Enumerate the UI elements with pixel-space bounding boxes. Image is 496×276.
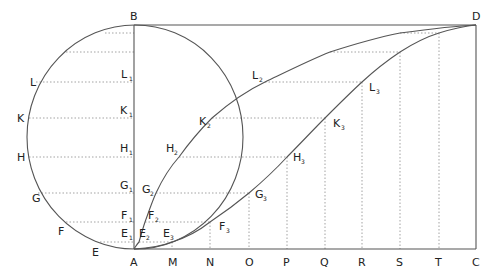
generating-circle	[27, 25, 243, 249]
svg-text:2: 2	[259, 76, 263, 83]
svg-text:N: N	[206, 256, 214, 269]
label-A: A	[130, 256, 138, 269]
svg-text:2: 2	[146, 234, 150, 241]
svg-text:3: 3	[226, 227, 230, 234]
svg-text:1: 1	[129, 75, 133, 82]
svg-text:1: 1	[129, 111, 133, 118]
label-K: K	[17, 112, 25, 125]
label-E: E	[92, 246, 99, 259]
svg-text:E: E	[163, 227, 170, 240]
svg-text:3: 3	[341, 124, 345, 131]
baseline-labels: M N O P Q R S T	[168, 256, 442, 269]
svg-text:1: 1	[129, 216, 133, 223]
svg-text:F: F	[121, 209, 127, 222]
svg-text:S: S	[396, 256, 403, 269]
curve3-labels: L3 K3 H3 G3 F3 E3	[163, 81, 380, 241]
svg-text:K: K	[120, 104, 128, 117]
svg-text:H: H	[120, 142, 128, 155]
diagram-canvas: B D A C L K H G F E L1 K1 H1 G1 F1 E1 L2…	[0, 0, 496, 276]
svg-text:3: 3	[170, 234, 174, 241]
svg-text:3: 3	[376, 88, 380, 95]
dotted-horizontals-left	[29, 33, 134, 242]
svg-text:1: 1	[129, 186, 133, 193]
svg-text:L: L	[369, 81, 376, 94]
svg-text:L: L	[121, 68, 128, 81]
svg-text:R: R	[358, 256, 366, 269]
svg-text:F: F	[219, 220, 225, 233]
label-H: H	[17, 151, 25, 164]
svg-text:L: L	[252, 69, 259, 82]
label-L: L	[30, 76, 37, 89]
svg-text:2: 2	[155, 216, 159, 223]
dotted-horizontals-right	[139, 33, 439, 242]
svg-text:2: 2	[174, 149, 178, 156]
label-D: D	[472, 10, 480, 23]
svg-text:3: 3	[301, 158, 305, 165]
svg-text:K: K	[199, 115, 207, 128]
label-C: C	[472, 256, 480, 269]
svg-text:1: 1	[129, 149, 133, 156]
svg-text:2: 2	[150, 190, 154, 197]
svg-text:1: 1	[129, 234, 133, 241]
curve-2	[134, 25, 476, 249]
label-F: F	[58, 225, 64, 238]
svg-text:O: O	[245, 256, 254, 269]
construction-diagram: B D A C L K H G F E L1 K1 H1 G1 F1 E1 L2…	[0, 0, 496, 276]
svg-text:E: E	[121, 227, 128, 240]
svg-text:M: M	[168, 256, 178, 269]
svg-text:P: P	[283, 256, 290, 269]
svg-text:K: K	[333, 117, 341, 130]
label-G: G	[32, 192, 41, 205]
svg-text:2: 2	[207, 122, 211, 129]
curve2-labels: L2 K2 H2 G2 F2 E2	[139, 69, 263, 241]
svg-text:Q: Q	[320, 256, 329, 269]
label-B: B	[130, 10, 138, 23]
svg-text:F: F	[148, 209, 154, 222]
dotted-verticals	[172, 33, 439, 249]
svg-text:E: E	[139, 227, 146, 240]
svg-text:T: T	[434, 256, 442, 269]
svg-text:G: G	[120, 179, 129, 192]
axis-labels: L1 K1 H1 G1 F1 E1	[120, 68, 133, 241]
curve-3	[134, 25, 476, 249]
svg-text:3: 3	[263, 195, 267, 202]
